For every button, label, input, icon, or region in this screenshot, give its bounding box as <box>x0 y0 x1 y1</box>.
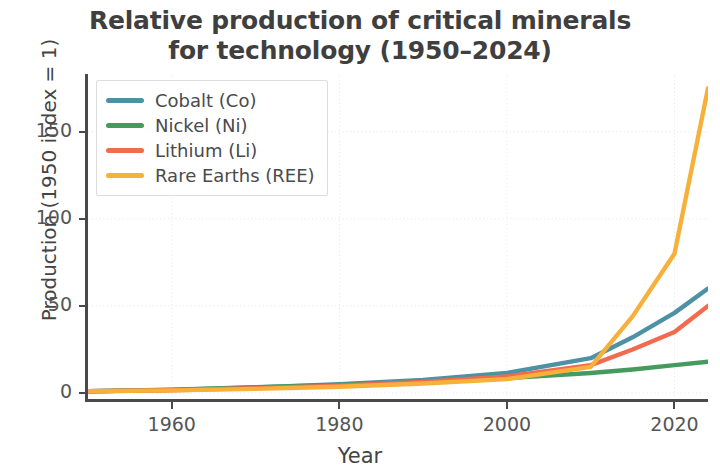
series-line-2 <box>88 306 708 391</box>
x-tick-mark <box>171 401 173 409</box>
legend-color-swatch <box>106 98 144 103</box>
y-tick-mark <box>79 218 86 220</box>
y-axis-spine <box>85 74 88 402</box>
legend-item[interactable]: Nickel (Ni) <box>106 113 315 138</box>
legend-color-swatch <box>106 123 144 128</box>
x-tick-label: 1980 <box>299 413 379 435</box>
legend-item[interactable]: Cobalt (Co) <box>106 88 315 113</box>
y-tick-label: 0 <box>14 380 72 402</box>
series-line-1 <box>88 362 708 392</box>
y-tick-mark <box>79 392 86 394</box>
legend-item[interactable]: Lithium (Li) <box>106 138 315 163</box>
chart-figure: Relative production of critical minerals… <box>0 0 720 476</box>
legend-label: Nickel (Ni) <box>155 115 247 136</box>
x-tick-mark <box>506 401 508 409</box>
legend-color-swatch <box>106 148 144 153</box>
x-tick-mark <box>673 401 675 409</box>
x-axis-spine <box>85 399 708 402</box>
legend-item[interactable]: Rare Earths (REE) <box>106 163 315 188</box>
legend-label: Cobalt (Co) <box>155 90 256 111</box>
legend-label: Lithium (Li) <box>155 140 257 161</box>
y-tick-label: 150 <box>14 119 72 141</box>
y-tick-label: 100 <box>14 206 72 228</box>
x-tick-label: 2000 <box>467 413 547 435</box>
chart-title: Relative production of critical minerals… <box>0 6 720 65</box>
legend-color-swatch <box>106 173 144 178</box>
legend-label: Rare Earths (REE) <box>155 165 315 186</box>
x-tick-label: 2020 <box>634 413 714 435</box>
y-tick-mark <box>79 305 86 307</box>
x-tick-label: 1960 <box>132 413 212 435</box>
chart-legend: Cobalt (Co)Nickel (Ni)Lithium (Li)Rare E… <box>96 80 328 196</box>
y-tick-mark <box>79 131 86 133</box>
x-tick-mark <box>338 401 340 409</box>
x-axis-label: Year <box>0 444 720 468</box>
y-tick-label: 50 <box>14 293 72 315</box>
